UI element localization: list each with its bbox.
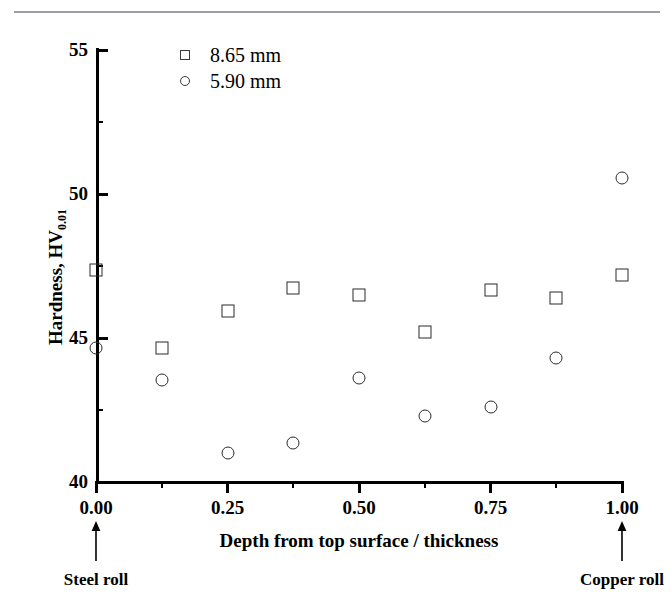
x-axis-title: Depth from top surface / thickness [96, 530, 622, 552]
data-point-square [550, 291, 563, 304]
page-divider-rule [14, 11, 660, 13]
data-point-circle [616, 172, 629, 185]
data-point-square [418, 326, 431, 339]
x-axis-tick [226, 481, 229, 493]
y-axis-minor-tick [96, 409, 103, 411]
x-axis-tick-label: 1.00 [605, 497, 638, 519]
data-point-circle [550, 352, 563, 365]
data-point-circle [353, 372, 366, 385]
roll-annotation-label: Copper roll [580, 570, 664, 590]
y-axis-tick [96, 481, 108, 484]
x-axis-tick-label: 0.25 [211, 497, 244, 519]
data-point-circle [484, 401, 497, 414]
legend-circle-icon [172, 76, 198, 86]
y-axis-tick [96, 193, 108, 196]
legend-item-label: 5.90 mm [210, 70, 281, 93]
x-axis-tick-label: 0.75 [474, 497, 507, 519]
y-axis-tick-label: 40 [40, 471, 88, 493]
y-axis-title: Hardness, HV0.01 [45, 147, 67, 407]
x-axis-minor-tick [292, 481, 294, 488]
roll-annotation-label: Steel roll [64, 570, 128, 590]
x-axis-tick [95, 481, 98, 493]
x-axis-tick [621, 481, 624, 493]
y-axis-tick-label: 55 [40, 39, 88, 61]
y-axis-title-subscript: 0.01 [55, 209, 69, 230]
x-axis-minor-tick [161, 481, 163, 488]
data-point-square [90, 264, 103, 277]
legend-item: 8.65 mm [172, 42, 352, 68]
chart-page: 404550550.000.250.500.751.00Steel rollCo… [0, 0, 672, 605]
data-point-circle [90, 342, 103, 355]
x-axis-minor-tick [555, 481, 557, 488]
chart-legend: 8.65 mm 5.90 mm [172, 42, 352, 94]
x-axis-minor-tick [424, 481, 426, 488]
legend-item: 5.90 mm [172, 68, 352, 94]
x-axis-tick-label: 0.00 [79, 497, 112, 519]
data-point-square [484, 284, 497, 297]
y-axis-title-text: Hardness, HV [45, 230, 66, 345]
y-axis-tick [96, 337, 108, 340]
data-point-square [155, 342, 168, 355]
data-point-square [287, 281, 300, 294]
data-point-circle [155, 373, 168, 386]
data-point-circle [418, 409, 431, 422]
data-point-square [353, 288, 366, 301]
data-point-circle [287, 437, 300, 450]
y-axis-tick [96, 49, 108, 52]
y-axis-minor-tick [96, 121, 103, 123]
x-axis-tick [489, 481, 492, 493]
data-point-square [221, 304, 234, 317]
x-axis-tick-label: 0.50 [342, 497, 375, 519]
data-point-square [616, 268, 629, 281]
legend-item-label: 8.65 mm [210, 44, 281, 67]
legend-square-icon [172, 50, 198, 60]
data-point-circle [221, 447, 234, 460]
x-axis-tick [358, 481, 361, 493]
